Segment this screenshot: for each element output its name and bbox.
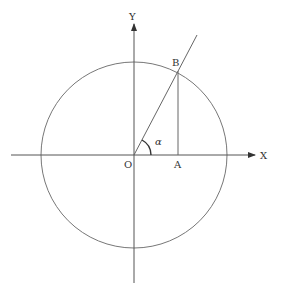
point-b-label: B [172,57,179,68]
x-axis-label: X [260,150,268,161]
ray-ob [134,35,197,155]
unit-circle-diagram: Y X O A B α [0,0,282,288]
angle-arc [142,140,151,155]
origin-label: O [124,159,132,170]
angle-alpha-label: α [155,136,162,147]
y-axis-label: Y [128,11,136,22]
point-a-label: A [173,159,182,170]
